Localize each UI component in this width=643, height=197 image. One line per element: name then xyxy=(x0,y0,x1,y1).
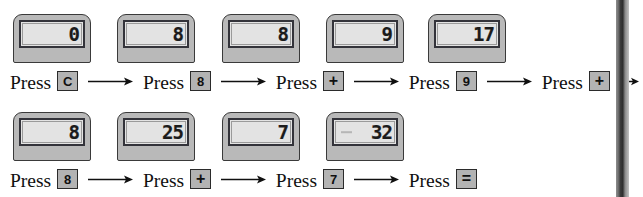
clear-key[interactable]: C xyxy=(57,71,78,91)
digit-8-key[interactable]: 8 xyxy=(57,169,78,189)
step-2: Press+ xyxy=(143,169,212,191)
plus-key[interactable]: + xyxy=(190,169,211,189)
press-label: Press xyxy=(276,73,317,93)
display-value: 25 xyxy=(162,123,183,142)
press-label: Press xyxy=(143,171,184,191)
calculator-display: 25 xyxy=(117,112,195,161)
calculator-screen: 9 xyxy=(332,20,398,48)
display-value: 32 xyxy=(371,123,392,142)
step-1: Press8 xyxy=(10,169,79,191)
calculator-display: 32 xyxy=(326,112,404,161)
step-4: Press9 xyxy=(409,71,478,93)
calculator-screen: 25 xyxy=(123,118,189,146)
plus-key[interactable]: + xyxy=(589,71,610,91)
display-value: 8 xyxy=(69,123,79,142)
press-label: Press xyxy=(409,171,450,191)
step-4: Press= xyxy=(409,169,478,191)
display-value: 0 xyxy=(69,25,79,44)
calculator-screen: 8 xyxy=(19,118,85,146)
calculator-screen: 17 xyxy=(434,20,500,48)
display-value: 8 xyxy=(278,25,288,44)
calculator-display: 9 xyxy=(326,14,404,63)
calculator-display: 0 xyxy=(13,14,91,63)
calculator-screen: 7 xyxy=(228,118,294,146)
arrow-right-icon xyxy=(221,72,267,91)
step-2: Press8 xyxy=(143,71,212,93)
display-value: 17 xyxy=(473,25,494,44)
plus-key[interactable]: + xyxy=(323,71,344,91)
step-3: Press+ xyxy=(276,71,345,93)
calculator-screen: 0 xyxy=(19,20,85,48)
calculator-display: 8 xyxy=(117,14,195,63)
display-value: 7 xyxy=(278,123,288,142)
press-label: Press xyxy=(409,73,450,93)
display-value: 8 xyxy=(173,25,183,44)
press-label: Press xyxy=(10,171,51,191)
display-value: 9 xyxy=(382,25,392,44)
arrow-right-icon xyxy=(354,170,400,189)
page-edge-bar xyxy=(616,0,629,197)
step-3: Press7 xyxy=(276,169,345,191)
digit-7-key[interactable]: 7 xyxy=(323,169,344,189)
scan-artifact xyxy=(341,131,352,133)
caption-row-2: Press8 Press+ Press7 Press= xyxy=(10,168,478,190)
arrow-right-icon xyxy=(88,170,134,189)
calculator-display: 8 xyxy=(13,112,91,161)
step-1: PressC xyxy=(10,71,79,93)
calculator-display: 8 xyxy=(222,14,300,63)
calculator-screen: 8 xyxy=(228,20,294,48)
arrow-right-icon xyxy=(88,72,134,91)
press-label: Press xyxy=(276,171,317,191)
calculator-screen: 8 xyxy=(123,20,189,48)
calculator-screen: 32 xyxy=(332,118,398,146)
digit-8-key[interactable]: 8 xyxy=(190,71,211,91)
digit-9-key[interactable]: 9 xyxy=(456,71,477,91)
arrow-right-icon xyxy=(354,72,400,91)
step-5: Press+ xyxy=(542,71,611,93)
press-label: Press xyxy=(143,73,184,93)
arrow-right-icon xyxy=(487,72,533,91)
arrow-right-icon xyxy=(221,170,267,189)
press-label: Press xyxy=(542,73,583,93)
calculator-display: 7 xyxy=(222,112,300,161)
equals-key[interactable]: = xyxy=(456,169,477,189)
caption-row-1: PressC Press8 Press+ Press9 Press+ xyxy=(10,70,643,92)
calculator-display: 17 xyxy=(428,14,506,63)
press-label: Press xyxy=(10,73,51,93)
